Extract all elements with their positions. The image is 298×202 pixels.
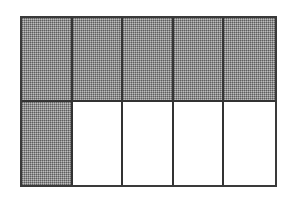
unshaded-cell <box>224 102 275 186</box>
shaded-cell <box>224 18 275 102</box>
shaded-count: 6 <box>0 0 1 1</box>
shaded-cell <box>123 18 174 102</box>
fraction-grid <box>20 16 277 187</box>
shaded-cell <box>22 102 73 186</box>
shaded-cell <box>73 18 124 102</box>
unshaded-cell <box>174 102 225 186</box>
unshaded-cell <box>73 102 124 186</box>
unshaded-cell <box>123 102 174 186</box>
total-cells: 10 <box>0 0 1 1</box>
shaded-cell <box>22 18 73 102</box>
shaded-cell <box>174 18 225 102</box>
diagram-canvas: 6 10 <box>0 0 298 202</box>
